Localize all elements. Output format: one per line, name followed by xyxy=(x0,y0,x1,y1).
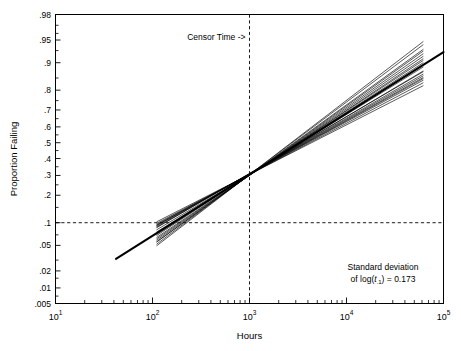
annotation-suffix: ) = 0.173 xyxy=(382,274,416,284)
standard-deviation-annotation-line2: of log(t.1) = 0.173 xyxy=(351,274,416,285)
y-tick-label: .005 xyxy=(34,299,51,309)
annotation-prefix: of log( xyxy=(351,274,375,284)
y-axis-title: Proportion Failing xyxy=(8,122,19,196)
y-tick-label: .6 xyxy=(44,122,51,132)
y-tick-label: .9 xyxy=(44,58,51,68)
y-tick-label: .7 xyxy=(44,105,51,115)
y-tick-label: .3 xyxy=(44,170,51,180)
probability-plot-figure: .98.95.9.8.7.6.5.4.3.2.1.05.02.01.005 10… xyxy=(0,0,461,351)
censor-time-annotation: Censor Time -> xyxy=(187,32,245,42)
y-tick-label: .4 xyxy=(44,154,51,164)
y-tick-label: .02 xyxy=(39,266,51,276)
y-tick-label: .05 xyxy=(39,240,51,250)
y-tick-label: .8 xyxy=(44,85,51,95)
y-tick-label: .95 xyxy=(39,35,51,45)
y-tick-label: .98 xyxy=(39,10,51,20)
standard-deviation-annotation-line1: Standard deviation xyxy=(348,262,419,272)
chart-background xyxy=(0,0,461,351)
chart-svg: .98.95.9.8.7.6.5.4.3.2.1.05.02.01.005 10… xyxy=(0,0,461,351)
y-tick-label: .5 xyxy=(44,138,51,148)
y-tick-label: .2 xyxy=(44,190,51,200)
y-tick-label: .01 xyxy=(39,283,51,293)
y-tick-label: .1 xyxy=(44,218,51,228)
x-axis-title: Hours xyxy=(237,330,263,341)
